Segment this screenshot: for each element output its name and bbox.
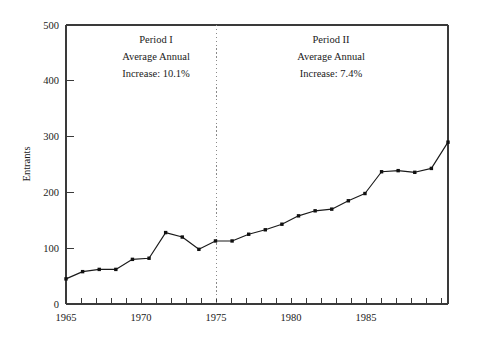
- period-2-rate: Increase: 7.4%: [300, 68, 363, 79]
- data-point-marker: [297, 214, 300, 217]
- data-point-marker: [214, 239, 217, 242]
- line-chart-svg: 0 100 200 300 400 500 Entrants: [0, 0, 477, 344]
- annotation-period-1: Period I Average Annual Increase: 10.1%: [122, 34, 190, 79]
- period-2-title: Period II: [312, 34, 350, 45]
- data-point-marker: [147, 257, 150, 260]
- x-tick-labels: 1965 1970 1975 1980 1985: [56, 312, 377, 323]
- entrants-series-markers: [64, 140, 449, 280]
- data-point-marker: [181, 235, 184, 238]
- y-tick-label-200: 200: [43, 187, 59, 198]
- y-tick-label-500: 500: [43, 20, 59, 31]
- data-point-marker: [164, 231, 167, 234]
- data-point-marker: [313, 209, 316, 212]
- data-point-marker: [197, 248, 200, 251]
- x-tick-marks: [66, 296, 441, 304]
- y-tick-label-0: 0: [54, 299, 59, 310]
- entrants-series-line: [66, 142, 448, 279]
- data-point-marker: [446, 140, 449, 143]
- data-point-marker: [264, 228, 267, 231]
- x-tick-label-1970: 1970: [131, 312, 152, 323]
- data-point-marker: [131, 258, 134, 261]
- data-point-marker: [280, 223, 283, 226]
- period-1-rate: Increase: 10.1%: [122, 68, 190, 79]
- data-point-marker: [230, 239, 233, 242]
- data-point-marker: [330, 207, 333, 210]
- data-point-marker: [64, 277, 67, 280]
- data-point-marker: [98, 268, 101, 271]
- chart-axes: [66, 25, 448, 304]
- chart-figure: 0 100 200 300 400 500 Entrants: [0, 0, 477, 344]
- data-point-marker: [114, 268, 117, 271]
- x-tick-label-1980: 1980: [281, 312, 302, 323]
- data-series-group: [64, 140, 449, 280]
- y-tick-label-100: 100: [43, 243, 59, 254]
- period-2-subtitle: Average Annual: [297, 51, 365, 62]
- data-point-marker: [363, 192, 366, 195]
- data-point-marker: [380, 170, 383, 173]
- data-point-marker: [81, 270, 84, 273]
- x-tick-label-1975: 1975: [206, 312, 227, 323]
- period-1-subtitle: Average Annual: [122, 51, 190, 62]
- annotation-period-2: Period II Average Annual Increase: 7.4%: [297, 34, 365, 79]
- data-point-marker: [247, 233, 250, 236]
- period-1-title: Period I: [139, 34, 173, 45]
- x-tick-label-1965: 1965: [56, 312, 77, 323]
- y-tick-labels: 0 100 200 300 400 500: [43, 20, 59, 310]
- y-axis-title: Entrants: [21, 147, 32, 182]
- data-point-marker: [396, 169, 399, 172]
- y-tick-label-300: 300: [43, 131, 59, 142]
- x-tick-label-1985: 1985: [356, 312, 377, 323]
- data-point-marker: [413, 171, 416, 174]
- data-point-marker: [347, 199, 350, 202]
- y-tick-label-400: 400: [43, 75, 59, 86]
- y-tick-marks: [66, 25, 74, 304]
- data-point-marker: [430, 167, 433, 170]
